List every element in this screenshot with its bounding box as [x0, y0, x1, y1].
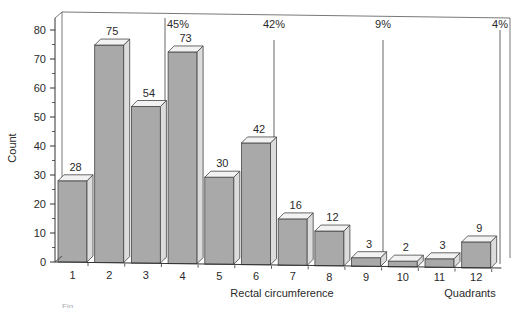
bar-value-label: 28 — [69, 161, 81, 173]
bar-front-face — [131, 107, 160, 264]
bar-front-face — [278, 219, 307, 265]
bar-top-face — [425, 253, 460, 259]
y-tick-label: 30 — [34, 169, 46, 181]
bar-3: 54 — [131, 87, 166, 264]
bar-1: 28 — [58, 161, 93, 262]
group-percent-label: 9% — [375, 18, 391, 30]
x-tick-label: 9 — [363, 271, 369, 283]
bar-top-face — [315, 225, 350, 231]
bar-8: 12 — [315, 211, 350, 266]
bar-value-label: 16 — [290, 199, 302, 211]
bar-top-face — [131, 101, 166, 107]
bar-value-label: 3 — [439, 239, 445, 251]
x-tick-label: 3 — [143, 269, 149, 281]
x-tick-label: 2 — [106, 269, 112, 281]
x-tick-label: 10 — [397, 271, 409, 283]
bar-front-face — [315, 231, 344, 266]
group-percent-label: 42% — [263, 18, 285, 30]
x-tick-label: 7 — [290, 270, 296, 282]
bar-value-label: 2 — [403, 241, 409, 253]
x-tick-label: 5 — [216, 270, 222, 282]
x-tick-label: 1 — [69, 269, 75, 281]
bar-top-face — [242, 137, 277, 143]
x-tick-label: 4 — [180, 270, 186, 282]
bar-9: 3 — [352, 238, 387, 267]
bar-4: 73 — [168, 32, 203, 264]
bar-side-face — [87, 175, 93, 262]
bar-5: 30 — [205, 157, 240, 264]
bar-side-face — [307, 213, 313, 265]
y-tick-label: 50 — [34, 111, 46, 123]
bar-12: 9 — [462, 222, 497, 268]
bar-top-face — [168, 46, 203, 52]
bar-side-face — [124, 39, 130, 262]
bar-value-label: 12 — [326, 211, 338, 223]
bar-11: 3 — [425, 239, 460, 268]
bars: 28755473304216123239 — [58, 25, 497, 268]
bar-front-face — [242, 143, 271, 265]
bar-front-face — [58, 181, 87, 262]
bar-side-face — [160, 101, 166, 264]
bar-front-face — [462, 242, 491, 268]
bar-top-face — [95, 39, 130, 45]
bar-top-face — [352, 252, 387, 258]
bar-top-face — [278, 213, 313, 219]
bar-top-face — [58, 175, 93, 181]
bar-2: 75 — [95, 25, 130, 262]
bar-value-label: 3 — [366, 238, 372, 250]
y-tick-label: 60 — [34, 82, 46, 94]
bar-front-face — [168, 52, 197, 264]
bar-side-face — [197, 46, 203, 264]
bar-front-face — [205, 177, 234, 264]
bar-6: 42 — [242, 123, 277, 265]
bar-side-face — [344, 225, 350, 266]
y-tick-label: 20 — [34, 198, 46, 210]
bar-side-face — [271, 137, 277, 265]
bar-value-label: 75 — [106, 25, 118, 37]
figure-caption: Fig. ... — [62, 303, 172, 308]
bar-value-label: 73 — [179, 32, 191, 44]
x-tick-label: 8 — [326, 271, 332, 283]
y-axis-label: Count — [6, 133, 18, 162]
bar-value-label: 9 — [476, 222, 482, 234]
y-axis: 01020304050607080 — [34, 18, 55, 268]
bar-front-face — [95, 45, 124, 262]
y-tick-label: 10 — [34, 227, 46, 239]
top-depth-edge — [55, 12, 62, 18]
y-tick-label: 0 — [40, 256, 46, 268]
x-tick-label: 12 — [470, 271, 482, 283]
x-tick-label: 6 — [253, 270, 259, 282]
bar-value-label: 42 — [253, 123, 265, 135]
group-percent-label: 4% — [492, 18, 508, 30]
bar-front-face — [425, 259, 454, 268]
bar-top-face — [462, 236, 497, 242]
bar-10: 2 — [388, 241, 423, 267]
bar-top-face — [205, 171, 240, 177]
y-tick-label: 70 — [34, 53, 46, 65]
bar-7: 16 — [278, 199, 313, 265]
bar-chart: 01020304050607080 45%42%9%4% 28755473304… — [0, 0, 514, 310]
bar-front-face — [352, 258, 381, 267]
group-percent-label: 45% — [167, 18, 189, 30]
x-axis-label: Rectal circumference — [230, 287, 333, 299]
bar-side-face — [234, 171, 240, 264]
bar-value-label: 30 — [216, 157, 228, 169]
figure-caption-text: Fig. ... — [62, 303, 84, 308]
x-axis-secondary-label: Quadrants — [444, 287, 496, 299]
bar-top-face — [388, 255, 423, 261]
y-tick-label: 40 — [34, 140, 46, 152]
y-tick-label: 80 — [34, 24, 46, 36]
x-tick-label: 11 — [434, 271, 445, 283]
bar-value-label: 54 — [143, 87, 155, 99]
